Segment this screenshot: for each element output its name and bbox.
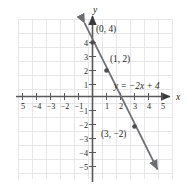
x-tick-3: 3 (133, 102, 137, 111)
x-tick--4: −4 (33, 102, 42, 111)
y-tick--2: −2 (79, 121, 88, 130)
y-tick-3: 3 (84, 53, 88, 62)
y-tick--3: −3 (79, 135, 88, 144)
x-tick-4: 4 (147, 102, 151, 111)
y-tick--4: −4 (79, 149, 88, 158)
label-point-1-2: (1, 2) (110, 54, 130, 65)
x-tick-2: 2 (119, 102, 123, 111)
y-axis-label: y (92, 5, 98, 15)
point-3-neg2 (132, 124, 137, 129)
label-point-0-4: (0, 4) (96, 24, 116, 35)
x-tick--2: −2 (61, 102, 70, 111)
x-tick-1: 1 (105, 102, 109, 111)
y-tick-1: 1 (84, 81, 88, 90)
label-point-3-neg2: (3, −2) (101, 129, 126, 140)
y-tick-4: 4 (84, 39, 88, 48)
x-tick-5: 5 (161, 102, 165, 111)
x-axis-label: x (175, 92, 181, 102)
y-tick-2: 2 (84, 67, 88, 76)
point-0-4 (90, 40, 95, 45)
y-tick--5: −5 (79, 163, 88, 172)
x-tick--5: 5 (21, 102, 25, 111)
point-1-2 (104, 68, 109, 73)
graph-svg: 5 −4 −3 −2 −1 1 2 3 4 5 4 3 2 1 −1 −2 −3… (0, 0, 188, 191)
x-tick--3: −3 (47, 102, 56, 111)
equation-label: y = −2x + 4 (113, 81, 160, 91)
y-tick--1: −1 (79, 107, 88, 116)
coordinate-plane-figure: 5 −4 −3 −2 −1 1 2 3 4 5 4 3 2 1 −1 −2 −3… (0, 0, 188, 191)
